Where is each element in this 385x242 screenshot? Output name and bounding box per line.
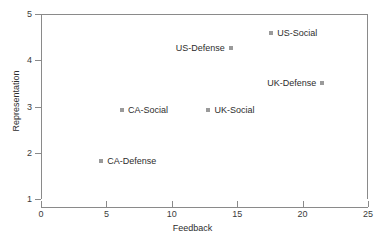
data-point[interactable]	[229, 46, 233, 50]
y-tick-mark	[35, 60, 41, 61]
data-point-label: CA-Social	[128, 104, 168, 115]
data-point[interactable]	[320, 81, 324, 85]
data-point-label: US-Social	[277, 27, 317, 38]
x-tick-label: 5	[104, 209, 109, 220]
data-point[interactable]	[120, 108, 124, 112]
y-tick-label: 5	[12, 9, 32, 20]
x-tick-mark	[237, 201, 238, 207]
x-tick-label: 25	[363, 209, 373, 220]
x-axis-title: Feedback	[0, 223, 385, 233]
data-point-label: US-Defense	[176, 43, 225, 54]
data-point-label: CA-Defense	[107, 155, 156, 166]
data-point-label: UK-Defense	[267, 78, 316, 89]
data-point[interactable]	[99, 159, 103, 163]
scatter-chart: 0510152025 12345 US-SocialUS-DefenseUK-D…	[0, 0, 385, 242]
y-tick-mark	[35, 153, 41, 154]
y-tick-mark	[35, 199, 41, 200]
y-tick-label: 1	[12, 194, 32, 205]
y-axis-title: Representation	[11, 21, 21, 181]
x-tick-mark	[172, 201, 173, 207]
y-tick-mark	[35, 107, 41, 108]
data-point-label: UK-Social	[214, 104, 254, 115]
x-tick-mark	[41, 201, 42, 207]
x-tick-mark	[368, 201, 369, 207]
data-point[interactable]	[206, 108, 210, 112]
x-axis-line	[41, 207, 368, 208]
data-point[interactable]	[269, 31, 273, 35]
x-tick-label: 15	[232, 209, 242, 220]
x-tick-label: 10	[167, 209, 177, 220]
x-tick-mark	[303, 201, 304, 207]
x-tick-label: 20	[298, 209, 308, 220]
x-tick-mark	[106, 201, 107, 207]
y-tick-mark	[35, 14, 41, 15]
x-tick-label: 0	[38, 209, 43, 220]
